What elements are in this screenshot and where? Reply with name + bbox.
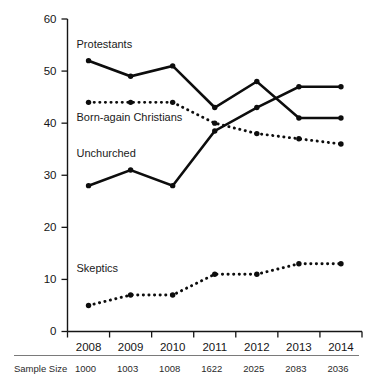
series-label-skeptics: Skeptics [77,262,119,274]
data-point-skeptics-2009 [128,292,133,297]
data-point-protestants-2012 [254,79,259,84]
x-tick-label-2011: 2011 [202,341,227,353]
x-tick-label-2009: 2009 [118,341,144,353]
y-tick-label-20: 20 [44,221,57,233]
data-point-unchurched-2008 [86,183,91,188]
data-point-born-again-christians-2008 [86,100,91,105]
sample-size-value-2008: 1000 [75,363,96,374]
sample-size-values: 1000100310081622202520832036 [75,363,349,374]
series-line-skeptics [89,264,341,306]
data-point-unchurched-2012 [254,105,259,110]
series-label-protestants: Protestants [77,38,133,50]
data-point-born-again-christians-2011 [212,120,217,125]
y-axis-tick-labels: 0102030405060 [44,13,57,338]
data-point-protestants-2014 [338,115,343,120]
data-point-unchurched-2011 [212,128,217,133]
chart-canvas: 0102030405060 20082009201020112012201320… [0,0,373,381]
data-point-skeptics-2012 [254,272,259,277]
series-annotations: ProtestantsBorn-again ChristiansUnchurch… [77,38,183,274]
sample-size-value-2009: 1003 [117,363,138,374]
sample-size-value-2013: 2083 [285,363,306,374]
series-lines [89,61,341,306]
sample-size-value-2014: 2036 [327,363,348,374]
data-point-unchurched-2010 [170,183,175,188]
sample-size-label: Sample Size [14,363,67,374]
data-point-skeptics-2010 [170,292,175,297]
data-point-protestants-2013 [296,115,301,120]
series-markers [86,58,344,308]
y-tick-label-50: 50 [44,65,57,77]
data-point-skeptics-2008 [86,303,91,308]
y-axis-ticks [62,19,68,332]
x-tick-label-2014: 2014 [328,341,354,353]
x-tick-label-2012: 2012 [244,341,270,353]
series-label-born-again-christians: Born-again Christians [77,111,183,123]
data-point-born-again-christians-2012 [254,131,259,136]
series-line-unchurched [89,87,341,186]
x-axis-ticks [68,332,363,338]
y-tick-label-60: 60 [44,13,57,25]
data-point-born-again-christians-2014 [338,141,343,146]
data-point-protestants-2009 [128,74,133,79]
y-tick-label-40: 40 [44,117,57,129]
x-axis-tick-labels: 2008200920102011201220132014 [76,341,355,353]
x-tick-label-2008: 2008 [76,341,102,353]
data-point-protestants-2008 [86,58,91,63]
data-point-born-again-christians-2013 [296,136,301,141]
line-chart-figure: 0102030405060 20082009201020112012201320… [0,0,373,381]
data-point-unchurched-2009 [128,167,133,172]
data-point-protestants-2011 [212,105,217,110]
data-point-born-again-christians-2010 [170,100,175,105]
data-point-born-again-christians-2009 [128,100,133,105]
data-point-unchurched-2014 [338,84,343,89]
series-label-unchurched: Unchurched [77,147,136,159]
x-tick-label-2010: 2010 [160,341,186,353]
data-point-skeptics-2011 [212,272,217,277]
sample-size-value-2010: 1008 [159,363,180,374]
sample-size-value-2012: 2025 [243,363,264,374]
data-point-unchurched-2013 [296,84,301,89]
x-tick-label-2013: 2013 [286,341,312,353]
sample-size-value-2011: 1622 [201,363,222,374]
y-tick-label-10: 10 [44,273,57,285]
data-point-skeptics-2014 [338,261,343,266]
y-tick-label-30: 30 [44,169,57,181]
data-point-skeptics-2013 [296,261,301,266]
y-tick-label-0: 0 [50,325,56,337]
data-point-protestants-2010 [170,63,175,68]
